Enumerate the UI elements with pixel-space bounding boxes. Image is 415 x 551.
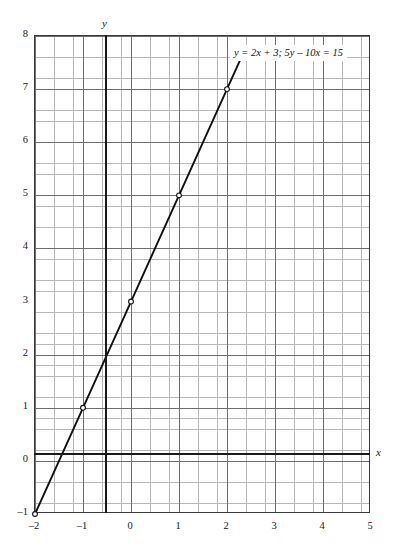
data-point-marker bbox=[81, 405, 86, 410]
x-tick-label: 5 bbox=[355, 520, 385, 531]
data-point-marker bbox=[33, 512, 38, 517]
x-tick-label: 3 bbox=[259, 520, 289, 531]
y-tick-label: 8 bbox=[4, 28, 28, 39]
y-tick-label: 0 bbox=[4, 453, 28, 464]
y-tick-label: –1 bbox=[4, 506, 28, 517]
data-point-marker bbox=[177, 193, 182, 198]
y-axis-line bbox=[105, 35, 107, 513]
data-layer bbox=[35, 36, 371, 514]
x-tick-label: 2 bbox=[211, 520, 241, 531]
equation-annotation: y = 2x + 3; 5y – 10x = 15 bbox=[230, 45, 347, 61]
chart-canvas: y x –1012345678 –2–1012345 y = 2x + 3; 5… bbox=[0, 0, 415, 551]
y-tick-label: 1 bbox=[4, 400, 28, 411]
data-point-marker bbox=[129, 299, 134, 304]
x-tick-label: –1 bbox=[67, 520, 97, 531]
x-tick-label: 4 bbox=[307, 520, 337, 531]
y-axis-label: y bbox=[102, 17, 107, 29]
y-tick-label: 7 bbox=[4, 81, 28, 92]
x-tick-label: 0 bbox=[115, 520, 145, 531]
y-tick-label: 2 bbox=[4, 347, 28, 358]
x-axis-line bbox=[34, 453, 370, 455]
plot-area bbox=[34, 35, 370, 513]
y-tick-label: 3 bbox=[4, 294, 28, 305]
x-axis-label: x bbox=[376, 446, 381, 458]
y-tick-label: 6 bbox=[4, 134, 28, 145]
series-line-group bbox=[35, 60, 240, 514]
series-line bbox=[35, 60, 240, 514]
data-point-marker bbox=[225, 87, 230, 92]
x-tick-label: 1 bbox=[163, 520, 193, 531]
y-tick-label: 4 bbox=[4, 240, 28, 251]
x-tick-label: –2 bbox=[19, 520, 49, 531]
y-tick-label: 5 bbox=[4, 187, 28, 198]
